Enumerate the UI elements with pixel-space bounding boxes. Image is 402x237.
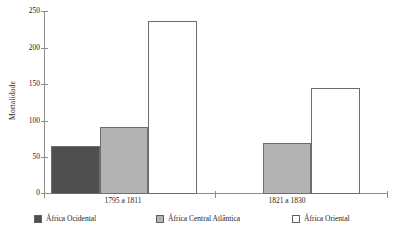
bar-oriental-1821-1830 bbox=[311, 88, 360, 194]
legend-item-ocidental: África Ocidental bbox=[34, 212, 96, 225]
legend-label-central-atlantica: África Central Atlântica bbox=[168, 214, 240, 223]
y-tick-label-200: 200 bbox=[20, 44, 40, 52]
y-axis-title: Mortalidade bbox=[8, 59, 17, 143]
legend-swatch-oriental-icon bbox=[292, 215, 300, 223]
legend-label-ocidental: África Ocidental bbox=[46, 214, 96, 223]
y-axis-line bbox=[44, 11, 45, 194]
bar-ocidental-1795-1811 bbox=[51, 146, 100, 194]
legend-swatch-central-atlantica-icon bbox=[156, 215, 164, 223]
legend-label-oriental: África Oriental bbox=[304, 214, 350, 223]
x-group-label-1821-1830: 1821 a 1830 bbox=[247, 196, 327, 205]
y-tick-label-100: 100 bbox=[20, 117, 40, 125]
y-tick-label-50: 50 bbox=[20, 153, 40, 161]
bar-central-atlantica-1821-1830 bbox=[263, 143, 311, 194]
legend-swatch-ocidental-icon bbox=[34, 215, 42, 223]
bar-central-atlantica-1795-1811 bbox=[100, 127, 148, 194]
x-tick-mark-origin bbox=[44, 191, 45, 198]
bar-chart: Mortalidade 250 200 150 100 50 0 1795 a … bbox=[0, 0, 402, 237]
x-group-label-1795-1811: 1795 a 1811 bbox=[83, 196, 163, 205]
x-tick-mark-divider bbox=[215, 191, 216, 198]
x-tick-mark-end bbox=[387, 191, 388, 198]
y-tick-label-150: 150 bbox=[20, 80, 40, 88]
chart-legend: África Ocidental África Central Atlântic… bbox=[0, 212, 402, 228]
y-tick-label-0: 0 bbox=[20, 189, 40, 197]
legend-item-oriental: África Oriental bbox=[292, 212, 350, 225]
bar-oriental-1795-1811 bbox=[148, 21, 197, 195]
y-tick-label-250: 250 bbox=[20, 7, 40, 15]
legend-item-central-atlantica: África Central Atlântica bbox=[156, 212, 240, 225]
